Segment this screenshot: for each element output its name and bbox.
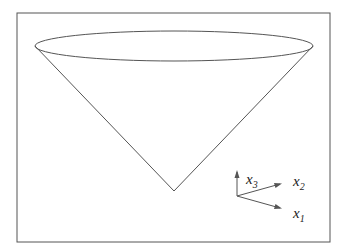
axis-x1: [237, 196, 280, 208]
cone-rim: [35, 31, 313, 61]
label-x3: x3: [245, 171, 258, 190]
label-x2: x2: [292, 173, 305, 192]
arrowhead-x1-icon: [274, 204, 282, 209]
arrowhead-x3-icon: [235, 170, 240, 178]
arrowhead-x2-icon: [274, 183, 282, 188]
frame-border: [17, 13, 330, 242]
cone-right-edge: [174, 46, 313, 191]
axes-triad: x3 x2 x1: [235, 170, 305, 224]
axis-x2: [237, 184, 280, 196]
diagram-canvas: x3 x2 x1: [0, 0, 347, 252]
cone-left-edge: [35, 46, 174, 191]
label-x1: x1: [292, 205, 305, 224]
cone: [35, 31, 313, 191]
